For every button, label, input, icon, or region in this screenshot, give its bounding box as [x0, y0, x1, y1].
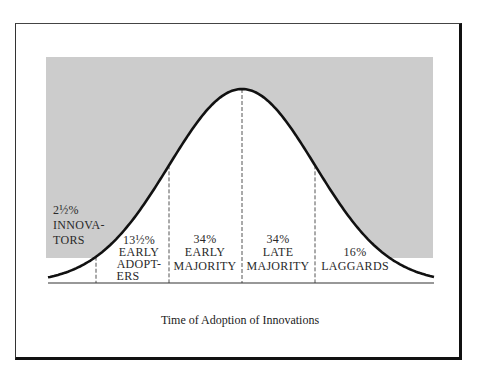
early-adopters-label-line-3: ERS: [117, 269, 140, 283]
innovators-percent: 2½%: [53, 203, 79, 217]
diagram-caption: Time of Adoption of Innovations: [161, 313, 320, 327]
late-majority-label-line-1: LATE: [263, 245, 294, 259]
early-majority-percent: 34%: [194, 232, 217, 246]
adoption-curve-diagram: 2½% INNOVA- TORS 13½% EARLY ADOPT- ERS 3…: [0, 0, 480, 375]
laggards-label-line-1: LAGGARDS: [321, 259, 389, 273]
laggards-percent: 16%: [344, 245, 367, 259]
innovators-label-line-1: INNOVA-: [53, 218, 105, 232]
early-majority-label-line-2: MAJORITY: [173, 259, 236, 273]
innovators-label-line-2: TORS: [53, 233, 85, 247]
late-majority-label-line-2: MAJORITY: [246, 259, 309, 273]
early-majority-label-line-1: EARLY: [185, 245, 225, 259]
late-majority-percent: 34%: [267, 232, 290, 246]
